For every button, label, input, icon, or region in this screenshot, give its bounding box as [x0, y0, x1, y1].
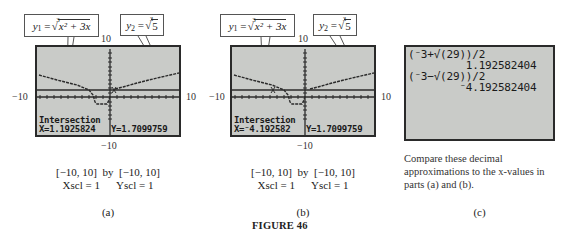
- panel-label-c: (c): [404, 206, 555, 218]
- xmax-label: 10: [381, 91, 391, 102]
- window-caption-line2: Xscl = 1 Yscl = 1: [230, 179, 376, 191]
- x-readout: X=⁻4.192582: [234, 124, 290, 134]
- ymin-label: −10: [101, 140, 117, 151]
- xmin-label: −10: [209, 91, 225, 102]
- home-line-4: ⁻4.192582404: [408, 82, 536, 94]
- panel-label-a: (a): [35, 206, 181, 218]
- compare-note: Compare these decimal approximations to …: [404, 152, 556, 191]
- window-caption-line2: Xscl = 1 Yscl = 1: [35, 179, 181, 191]
- ymax-label: 10: [298, 33, 308, 44]
- y-readout: Y=1.7099759: [306, 124, 362, 134]
- y-readout: Y=1.7099759: [111, 124, 167, 134]
- window-caption-line1: [−10, 10] by [−10, 10]: [35, 166, 181, 178]
- home-screen-c: (⁻3+√(29))/2 1.192582404 (⁻3−√(29))/2 ⁻4…: [404, 45, 555, 141]
- window-caption-line1: [−10, 10] by [−10, 10]: [230, 166, 376, 178]
- x-readout: X=1.1925824: [39, 124, 95, 134]
- panel-label-b: (b): [230, 206, 376, 218]
- figure-title: FIGURE 46: [252, 220, 308, 231]
- graph-screen-b: Intersection X=⁻4.192582 Y=1.7099759: [230, 45, 376, 137]
- ymin-label: −10: [297, 140, 313, 151]
